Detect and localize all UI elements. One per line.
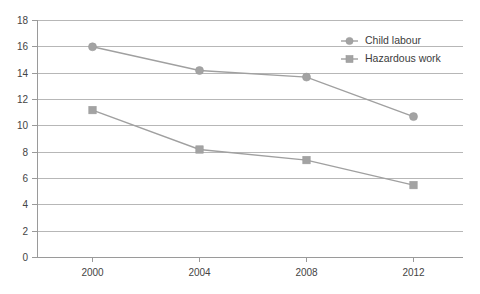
legend-circle-icon (346, 37, 353, 44)
legend-label-child-labour: Child labour (365, 34, 422, 46)
y-tick-label-8: 8 (22, 147, 28, 158)
y-tick-label-16: 16 (17, 41, 29, 52)
legend-label-hazardous-work: Hazardous work (365, 52, 442, 64)
y-tick-label-14: 14 (17, 68, 29, 79)
y-tick-label-0: 0 (22, 252, 28, 263)
data-point-child-labour-2008 (303, 73, 311, 81)
data-point-hazardous-work-2012 (410, 181, 417, 188)
data-point-child-labour-2000 (89, 43, 97, 51)
x-tick-label-2008: 2008 (295, 267, 318, 278)
x-tick-label-2012: 2012 (402, 267, 425, 278)
line-chart: 18 16 14 12 10 8 6 4 2 0 2000 2004 2008 … (0, 0, 480, 294)
data-point-hazardous-work-2008 (303, 156, 310, 163)
x-tick-label-2000: 2000 (81, 267, 104, 278)
y-tick-label-12: 12 (17, 94, 29, 105)
y-tick-label-18: 18 (17, 15, 29, 26)
x-tick-label-2004: 2004 (188, 267, 211, 278)
data-point-child-labour-2004 (196, 67, 204, 75)
y-tick-label-4: 4 (22, 199, 28, 210)
legend-square-icon (346, 56, 353, 63)
y-tick-label-2: 2 (22, 226, 28, 237)
chart-container: 18 16 14 12 10 8 6 4 2 0 2000 2004 2008 … (0, 0, 480, 294)
data-point-child-labour-2012 (410, 113, 418, 121)
data-point-hazardous-work-2004 (196, 146, 203, 153)
data-point-hazardous-work-2000 (89, 106, 96, 113)
y-tick-label-10: 10 (17, 120, 29, 131)
y-tick-label-6: 6 (22, 173, 28, 184)
